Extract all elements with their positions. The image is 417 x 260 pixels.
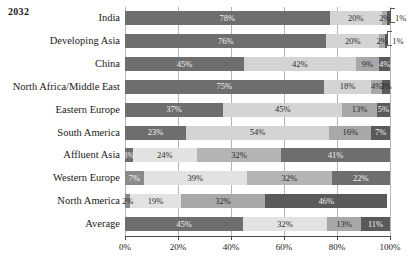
bar-row[interactable]: North America2%19%32%46%	[125, 194, 390, 208]
gridline	[390, 7, 391, 236]
x-axis-tick	[390, 236, 391, 240]
bar-segment[interactable]: 45%	[125, 217, 243, 231]
segment-value-label: 42%	[292, 60, 308, 69]
segment-value-label: 1%	[395, 14, 406, 23]
x-axis-tick	[284, 236, 285, 240]
bar-segment[interactable]: 32%	[197, 148, 282, 162]
category-label: Developing Asia	[50, 36, 120, 47]
bar-segment[interactable]: 19%	[130, 194, 180, 208]
bar-row[interactable]: North Africa/Middle East75%18%4%3%	[125, 80, 390, 94]
x-axis-tick-label: 60%	[276, 242, 293, 252]
stacked-bar: 76%20%2%1%	[125, 34, 390, 48]
bar-segment[interactable]: 13%	[342, 103, 376, 117]
segment-value-label: 32%	[281, 174, 297, 183]
bar-row[interactable]: Developing Asia76%20%2%1%	[125, 34, 390, 48]
bar-segment[interactable]: 22%	[332, 171, 390, 185]
bar-segment[interactable]: 45%	[223, 103, 342, 117]
bar-row[interactable]: Eastern Europe37%45%13%5%	[125, 103, 390, 117]
segment-value-label: 45%	[275, 105, 291, 114]
category-label: Western Europe	[53, 173, 120, 184]
bar-segment[interactable]: 4%	[379, 57, 390, 71]
segment-value-label: 32%	[215, 197, 231, 206]
segment-value-label: 4%	[379, 60, 390, 69]
bar-segment[interactable]: 16%	[329, 126, 371, 140]
x-axis-tick-label: 40%	[223, 242, 240, 252]
bar-segment[interactable]: 11%	[361, 217, 390, 231]
segment-value-label: 13%	[352, 105, 368, 114]
stacked-bar: 78%20%2%1%	[125, 11, 390, 25]
x-axis-tick-label: 100%	[380, 242, 401, 252]
segment-value-label: 2%	[376, 37, 387, 46]
segment-value-label: 45%	[176, 220, 192, 229]
bar-segment[interactable]: 54%	[186, 126, 329, 140]
bar-segment[interactable]: 24%	[133, 148, 197, 162]
segment-value-label: 78%	[220, 14, 236, 23]
segment-value-label: 16%	[342, 128, 358, 137]
segment-value-label: 7%	[375, 128, 386, 137]
stacked-bar: 23%54%16%7%	[125, 126, 390, 140]
category-label: North Africa/Middle East	[13, 81, 120, 92]
stacked-bar: 75%18%4%3%	[125, 80, 390, 94]
bar-segment[interactable]: 3%	[125, 148, 133, 162]
bar-row[interactable]: South America23%54%16%7%	[125, 126, 390, 140]
category-label: China	[95, 59, 120, 70]
chart-year-title: 2032	[8, 6, 29, 17]
x-axis: 0%20%40%60%80%100%	[125, 236, 390, 258]
segment-value-label: 7%	[129, 174, 140, 183]
bar-segment[interactable]: 46%	[265, 194, 387, 208]
segment-value-label: 32%	[231, 151, 247, 160]
category-label: Eastern Europe	[56, 104, 120, 115]
bar-segment[interactable]: 18%	[324, 80, 372, 94]
segment-value-label: 39%	[187, 174, 203, 183]
x-axis-tick	[231, 236, 232, 240]
bar-segment[interactable]: 13%	[327, 217, 361, 231]
segment-value-label: 11%	[368, 220, 383, 229]
bar-row[interactable]: Average45%32%13%11%	[125, 217, 390, 231]
bar-segment[interactable]: 5%	[377, 103, 390, 117]
segment-value-label: 24%	[157, 151, 173, 160]
segment-value-label: 13%	[336, 220, 352, 229]
stacked-bar-chart: 2032 India78%20%2%1%Developing Asia76%20…	[0, 0, 417, 260]
bar-segment[interactable]: 23%	[125, 126, 186, 140]
bar-segment[interactable]: 7%	[125, 171, 144, 185]
segment-value-label: 19%	[148, 197, 164, 206]
segment-value-label: 3%	[380, 82, 391, 91]
bar-segment[interactable]: 32%	[243, 217, 327, 231]
segment-value-label: 75%	[217, 82, 233, 91]
segment-value-label: 41%	[328, 151, 344, 160]
segment-value-label: 46%	[319, 197, 335, 206]
bar-segment[interactable]: 32%	[181, 194, 266, 208]
bar-segment[interactable]: 7%	[371, 126, 390, 140]
bar-segment[interactable]: 76%	[125, 34, 326, 48]
category-label: South America	[57, 127, 120, 138]
bar-segment[interactable]: 20%	[326, 34, 379, 48]
segment-value-label: 3%	[123, 151, 134, 160]
bar-row[interactable]: Western Europe7%39%32%22%	[125, 171, 390, 185]
bar-segment[interactable]: 45%	[125, 57, 244, 71]
bar-segment[interactable]: 20%	[330, 11, 382, 25]
stacked-bar: 2%19%32%46%	[125, 194, 390, 208]
bar-segment[interactable]: 42%	[244, 57, 355, 71]
segment-value-label: 9%	[362, 60, 373, 69]
bar-segment[interactable]: 39%	[144, 171, 247, 185]
segment-value-label: 45%	[177, 60, 193, 69]
x-axis-tick-label: 20%	[170, 242, 187, 252]
stacked-bar: 37%45%13%5%	[125, 103, 390, 117]
category-label: Affluent Asia	[63, 150, 120, 161]
bar-segment[interactable]: 32%	[247, 171, 332, 185]
bar-segment[interactable]: 41%	[281, 148, 390, 162]
segment-value-label: 5%	[378, 105, 389, 114]
bar-segment[interactable]: 75%	[125, 80, 324, 94]
category-label: North America	[57, 196, 120, 207]
bar-row[interactable]: China45%42%9%4%	[125, 57, 390, 71]
segment-value-label: 18%	[340, 82, 356, 91]
bar-row[interactable]: India78%20%2%1%	[125, 11, 390, 25]
bar-segment[interactable]: 37%	[125, 103, 223, 117]
stacked-bar: 45%32%13%11%	[125, 217, 390, 231]
bar-segment[interactable]: 9%	[356, 57, 380, 71]
category-label: Average	[85, 219, 120, 230]
bar-row[interactable]: Affluent Asia3%24%32%41%	[125, 148, 390, 162]
bar-segment[interactable]: 78%	[125, 11, 330, 25]
bar-segment[interactable]: 3%	[382, 80, 390, 94]
segment-value-label: 1%	[392, 37, 403, 46]
